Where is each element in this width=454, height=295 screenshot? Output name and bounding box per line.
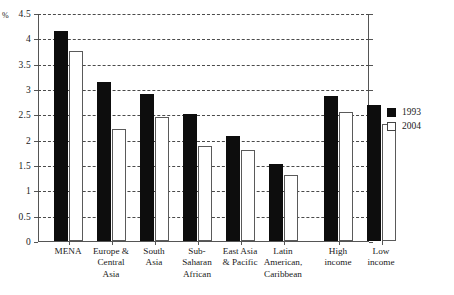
- bar-2004-4: [241, 150, 255, 241]
- bar-1993-0: [54, 31, 68, 241]
- legend-item-1993: 1993: [387, 105, 421, 119]
- bar-2004-7: [382, 124, 396, 241]
- x-axis-label-5: LatinAmerican,Caribbean: [252, 246, 314, 280]
- bar-1993-6: [324, 96, 338, 241]
- bar-1993-5: [269, 164, 283, 241]
- bar-1993-3: [183, 114, 197, 241]
- x-axis-label-line: Caribbean: [252, 269, 314, 280]
- x-tick-4: [241, 241, 242, 245]
- bar-group-1: [97, 14, 127, 241]
- y-tick-left-3: [34, 90, 38, 91]
- y-axis-unit-label: %: [2, 11, 9, 20]
- x-tick-0: [69, 241, 70, 245]
- y-tick-left-2.5: [34, 115, 38, 116]
- x-axis-label-line: Latin: [252, 246, 314, 257]
- bar-1993-4: [226, 136, 240, 241]
- bar-series-layer: [39, 14, 368, 241]
- y-tick-left-4: [34, 39, 38, 40]
- bar-group-6: [324, 14, 354, 241]
- x-axis-label-line: income: [350, 257, 412, 268]
- y-tick-label-3.5: 3.5: [19, 60, 31, 70]
- y-tick-label-2.5: 2.5: [19, 110, 31, 120]
- x-axis-labels: MENAEurope &CentralAsiaSouthAsiaSub-Saha…: [38, 246, 369, 294]
- bar-1993-2: [140, 94, 154, 241]
- y-tick-label-4: 4: [26, 34, 31, 44]
- x-tick-6: [339, 241, 340, 245]
- legend-label-2004: 2004: [402, 121, 421, 131]
- bar-group-4: [226, 14, 256, 241]
- bar-group-2: [140, 14, 170, 241]
- white-square-icon: [387, 122, 396, 131]
- x-axis-line: [38, 241, 369, 242]
- x-axis-label-line: African: [166, 269, 228, 280]
- y-tick-label-1.5: 1.5: [19, 161, 31, 171]
- x-tick-1: [112, 241, 113, 245]
- bar-2004-0: [69, 51, 83, 241]
- y-tick-label-1: 1: [26, 186, 31, 196]
- y-tick-label-0.5: 0.5: [19, 212, 31, 222]
- x-axis-label-line: Low: [350, 246, 412, 257]
- x-tick-5: [284, 241, 285, 245]
- bar-chart: % 00.511.522.533.544.5 MENAEurope &Centr…: [0, 0, 454, 295]
- y-tick-left-0.5: [34, 217, 38, 218]
- y-tick-left-2: [34, 141, 38, 142]
- bar-2004-2: [155, 117, 169, 241]
- bar-2004-5: [284, 175, 298, 241]
- y-tick-label-0: 0: [26, 237, 31, 247]
- bar-1993-1: [97, 82, 111, 241]
- bar-group-3: [183, 14, 213, 241]
- x-axis-label-line: American,: [252, 257, 314, 268]
- bar-group-0: [54, 14, 84, 241]
- y-tick-label-2: 2: [26, 136, 31, 146]
- bar-group-5: [269, 14, 299, 241]
- plot-area: 00.511.522.533.544.5: [38, 14, 369, 242]
- x-axis-label-7: Lowincome: [350, 246, 412, 269]
- y-tick-left-1: [34, 191, 38, 192]
- x-tick-7: [382, 241, 383, 245]
- y-tick-left-4.5: [34, 14, 38, 15]
- legend-label-1993: 1993: [402, 107, 421, 117]
- y-tick-left-0: [34, 242, 38, 243]
- y-tick-label-4.5: 4.5: [19, 9, 31, 19]
- chart-legend: 1993 2004: [387, 105, 421, 133]
- x-axis-label-line: Asia: [80, 269, 142, 280]
- y-tick-label-3: 3: [26, 85, 31, 95]
- y-tick-left-3.5: [34, 65, 38, 66]
- y-tick-left-1.5: [34, 166, 38, 167]
- y-tick-right-0: [369, 242, 373, 243]
- legend-item-2004: 2004: [387, 119, 421, 133]
- bar-2004-1: [112, 129, 126, 241]
- bar-2004-6: [339, 112, 353, 241]
- x-tick-2: [155, 241, 156, 245]
- x-tick-3: [198, 241, 199, 245]
- bar-1993-7: [367, 105, 381, 241]
- black-square-icon: [387, 108, 396, 117]
- bar-2004-3: [198, 146, 212, 241]
